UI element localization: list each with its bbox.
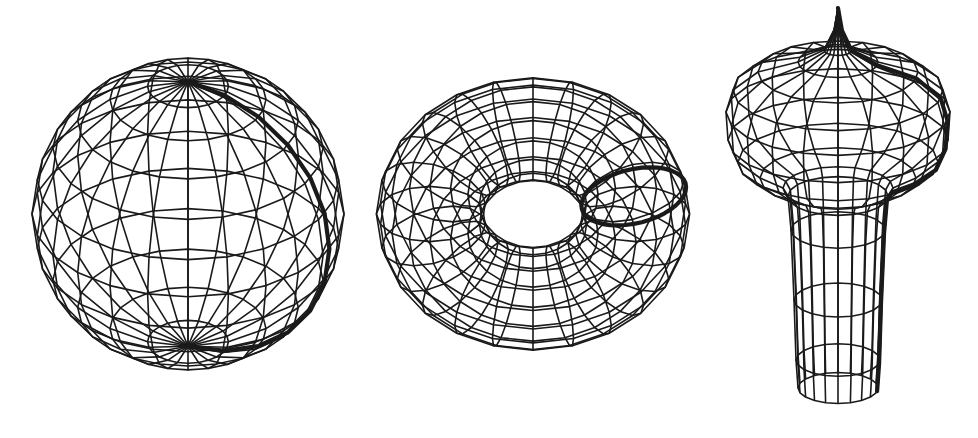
vase-wireframe: [726, 8, 950, 404]
sphere-highlight-curve: [188, 82, 329, 351]
sphere-meridian: [32, 82, 188, 347]
wireframe-figure: [0, 0, 978, 438]
sphere-wireframe: [32, 58, 344, 370]
torus-wireframe: [376, 78, 689, 350]
torus-ring: [484, 173, 583, 254]
